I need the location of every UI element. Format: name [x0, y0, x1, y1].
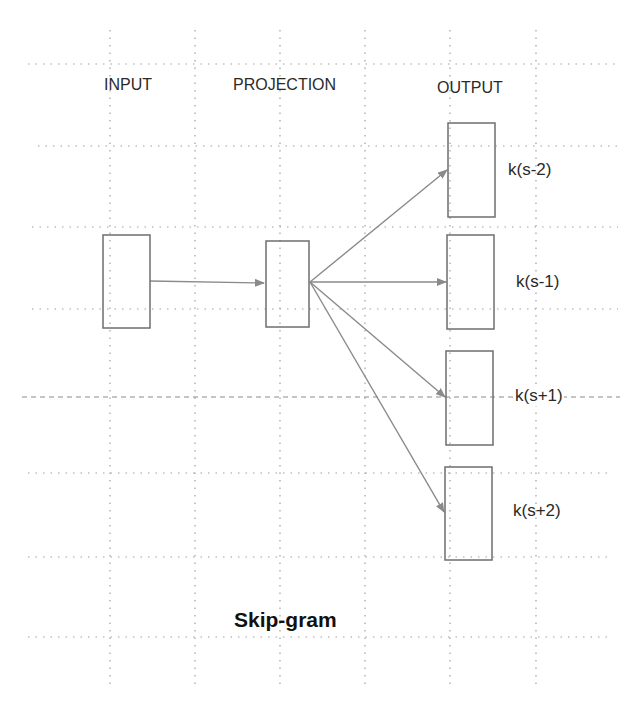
arrows	[150, 170, 447, 512]
output-box-2	[447, 235, 494, 329]
output-label-s-plus-2: k(s+2)	[513, 501, 561, 521]
arrow-projection-to-out1	[310, 170, 447, 282]
projection-box	[266, 241, 309, 327]
input-column-label: INPUT	[104, 76, 152, 94]
output-box-3	[446, 351, 493, 445]
output-column-label: OUTPUT	[437, 79, 503, 97]
dotted-grid	[28, 30, 618, 690]
output-label-s-minus-2: k(s-2)	[508, 160, 551, 180]
output-label-s-minus-1: k(s-1)	[516, 272, 559, 292]
arrow-projection-to-out3	[310, 282, 445, 397]
output-box-4	[445, 467, 492, 560]
projection-column-label: PROJECTION	[233, 76, 336, 94]
arrow-input-to-projection	[150, 281, 264, 283]
skip-gram-diagram	[0, 0, 632, 706]
boxes	[103, 123, 495, 560]
output-label-s-plus-1: k(s+1)	[514, 386, 564, 406]
diagram-title: Skip-gram	[234, 608, 337, 632]
output-box-1	[448, 123, 495, 217]
